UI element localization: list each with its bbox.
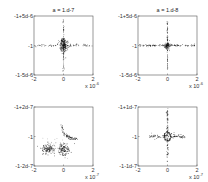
scatter-point (63, 71, 64, 72)
scatter-point (67, 148, 68, 149)
scatter-point (61, 49, 62, 50)
scatter-point (50, 144, 51, 145)
scatter-point (163, 137, 164, 138)
scatter-point (168, 108, 169, 109)
scatter-point (63, 68, 64, 69)
scatter-point (167, 138, 168, 139)
scatter-point (178, 45, 179, 46)
scatter-point (178, 135, 179, 136)
scatter-point (182, 136, 183, 137)
scatter-point (65, 155, 66, 156)
scatter-point (43, 154, 44, 155)
scatter-point (166, 128, 167, 129)
scatter-point (167, 64, 168, 65)
scatter-point (50, 147, 51, 148)
scatter-point (170, 45, 171, 46)
scatter-point (173, 138, 174, 139)
scatter-point (153, 136, 154, 137)
scatter-point (154, 136, 155, 137)
scatter-point (66, 143, 67, 144)
scatter-point (167, 45, 168, 46)
scatter-point (64, 47, 65, 48)
panel-1: a = 1.d-7-202x 10-6-1+5d-6-1-1-5d-6 (14, 7, 100, 89)
scatter-point (150, 44, 151, 45)
scatter-point (187, 46, 188, 47)
scatter-point (168, 138, 169, 139)
scatter-point (64, 44, 65, 45)
scatter-point (76, 46, 77, 47)
scatter-point (72, 137, 73, 138)
scatter-point (37, 146, 38, 147)
scatter-point (63, 22, 64, 23)
scatter-point (62, 127, 63, 128)
scatter-point (66, 152, 67, 153)
scatter-point (61, 146, 62, 147)
scatter-point (42, 150, 43, 151)
scatter-point (76, 138, 77, 139)
scatter-point (60, 146, 61, 147)
scatter-point (153, 44, 154, 45)
scatter-point (65, 40, 66, 41)
scatter-point (89, 45, 90, 46)
scatter-point (62, 140, 63, 141)
y-tick-label: -1 (28, 134, 33, 140)
scatter-point (48, 149, 49, 150)
scatter-point (167, 38, 168, 39)
scatter-point (67, 42, 68, 43)
scatter-point (149, 137, 150, 138)
scatter-point (41, 46, 42, 47)
scatter-point (63, 64, 64, 65)
scatter-point (167, 135, 168, 136)
scatter-point (168, 132, 169, 133)
scatter-point (163, 135, 164, 136)
axes-box (34, 107, 93, 166)
scatter-point (65, 50, 66, 51)
scatter-point (60, 48, 61, 49)
scatter-point (65, 154, 66, 155)
scatter-point (63, 144, 64, 145)
scatter-point (42, 148, 43, 149)
scatter-point (185, 45, 186, 46)
scatter-point (61, 44, 62, 45)
scatter-point (150, 46, 151, 47)
scatter-point (167, 123, 168, 124)
scatter-point (48, 46, 49, 47)
scatter-point (45, 153, 46, 154)
scatter-point (168, 45, 169, 46)
scatter-point (43, 151, 44, 152)
scatter-point (61, 148, 62, 149)
scatter-point (63, 67, 64, 68)
scatter-point (67, 136, 68, 137)
scatter-point (152, 46, 153, 47)
scatter-point (165, 45, 166, 46)
scatter-point (186, 45, 187, 46)
scatter-point (65, 153, 66, 154)
scatter-point (74, 45, 75, 46)
scatter-point (62, 41, 63, 42)
scatter-point (163, 45, 164, 46)
scatter-point (64, 34, 65, 35)
series-center-cluster (58, 143, 75, 158)
scatter-point (69, 150, 70, 151)
scatter-point (174, 134, 175, 135)
scatter-point (65, 157, 66, 158)
scatter-point (46, 145, 47, 146)
scatter-point (167, 69, 168, 70)
scatter-point (47, 144, 48, 145)
scatter-point (63, 28, 64, 29)
scatter-point (167, 144, 168, 145)
scatter-point (67, 144, 68, 145)
scatter-point (174, 136, 175, 137)
scatter-point (167, 61, 168, 62)
scatter-point (181, 134, 182, 135)
scatter-point (170, 44, 171, 45)
scatter-point (59, 148, 60, 149)
scatter-point (66, 44, 67, 45)
scatter-point (167, 35, 168, 36)
scatter-point (48, 155, 49, 156)
scatter-point (166, 139, 167, 140)
scatter-point (157, 137, 158, 138)
scatter-point (167, 126, 168, 127)
scatter-point (65, 150, 66, 151)
scatter-point (167, 56, 168, 57)
